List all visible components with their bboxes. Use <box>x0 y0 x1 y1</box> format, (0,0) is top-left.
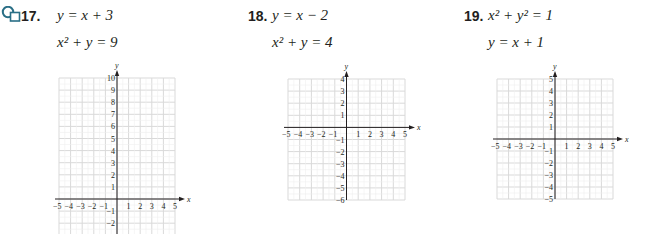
svg-text:2: 2 <box>549 111 553 120</box>
svg-text:x: x <box>186 195 191 204</box>
svg-text:−3: −3 <box>336 160 345 169</box>
svg-text:−2: −2 <box>526 142 535 151</box>
svg-text:−5: −5 <box>544 195 553 204</box>
svg-text:−1: −1 <box>336 136 345 145</box>
svg-text:−4: −4 <box>503 142 512 151</box>
svg-text:4: 4 <box>549 87 553 96</box>
svg-text:3: 3 <box>380 130 384 139</box>
svg-text:x: x <box>624 135 629 144</box>
svg-text:5: 5 <box>549 75 553 84</box>
svg-text:2: 2 <box>368 130 372 139</box>
svg-text:−4: −4 <box>336 172 345 181</box>
svg-text:10: 10 <box>107 74 115 83</box>
svg-text:4: 4 <box>391 130 395 139</box>
svg-text:−2: −2 <box>544 159 553 168</box>
svg-text:3: 3 <box>588 142 592 151</box>
svg-text:−5: −5 <box>53 202 62 211</box>
svg-text:−3: −3 <box>76 202 85 211</box>
coordinate-grid-17: xy−5−4−3−2−11234510987654321−1−2 <box>53 61 191 234</box>
svg-text:−1: −1 <box>106 207 115 216</box>
svg-text:2: 2 <box>138 202 142 211</box>
svg-text:2: 2 <box>341 99 345 108</box>
svg-text:−3: −3 <box>514 142 523 151</box>
svg-text:−4: −4 <box>294 130 303 139</box>
svg-text:7: 7 <box>111 110 115 119</box>
svg-text:1: 1 <box>127 202 131 211</box>
svg-text:1: 1 <box>356 130 360 139</box>
svg-text:−6: −6 <box>336 196 345 205</box>
svg-text:3: 3 <box>150 202 154 211</box>
coordinate-grid-18: xy−5−4−3−2−1123454321−1−2−3−4−5−6 <box>282 62 421 205</box>
svg-text:5: 5 <box>611 142 615 151</box>
svg-text:5: 5 <box>173 202 177 211</box>
svg-text:5: 5 <box>111 135 115 144</box>
svg-text:−5: −5 <box>336 184 345 193</box>
svg-text:−3: −3 <box>544 171 553 180</box>
svg-text:−4: −4 <box>65 202 74 211</box>
svg-text:6: 6 <box>111 122 115 131</box>
svg-text:y: y <box>114 61 119 70</box>
svg-text:−2: −2 <box>336 148 345 157</box>
svg-text:−2: −2 <box>317 130 326 139</box>
svg-text:1: 1 <box>111 183 115 192</box>
svg-text:1: 1 <box>549 123 553 132</box>
svg-text:3: 3 <box>341 87 345 96</box>
svg-text:3: 3 <box>549 99 553 108</box>
svg-text:x: x <box>416 123 421 132</box>
svg-text:−5: −5 <box>282 130 291 139</box>
svg-text:−5: −5 <box>491 142 500 151</box>
svg-text:y: y <box>344 62 349 71</box>
svg-text:−4: −4 <box>544 183 553 192</box>
svg-text:y: y <box>552 62 557 71</box>
svg-text:2: 2 <box>111 171 115 180</box>
svg-text:1: 1 <box>565 142 569 151</box>
svg-text:4: 4 <box>341 75 345 84</box>
svg-text:5: 5 <box>403 130 407 139</box>
svg-text:4: 4 <box>161 202 165 211</box>
svg-text:−1: −1 <box>544 147 553 156</box>
svg-text:4: 4 <box>599 142 603 151</box>
svg-text:8: 8 <box>111 98 115 107</box>
coordinate-grid-19: xy−5−4−3−2−11234554321−1−2−3−4−5 <box>491 62 629 204</box>
svg-text:−2: −2 <box>88 202 97 211</box>
svg-text:−2: −2 <box>106 219 115 228</box>
svg-text:3: 3 <box>111 159 115 168</box>
svg-text:2: 2 <box>576 142 580 151</box>
coordinate-grids: xy−5−4−3−2−11234510987654321−1−2xy−5−4−3… <box>0 0 647 234</box>
svg-text:9: 9 <box>111 86 115 95</box>
svg-text:1: 1 <box>341 111 345 120</box>
svg-text:4: 4 <box>111 147 115 156</box>
svg-text:−3: −3 <box>305 130 314 139</box>
